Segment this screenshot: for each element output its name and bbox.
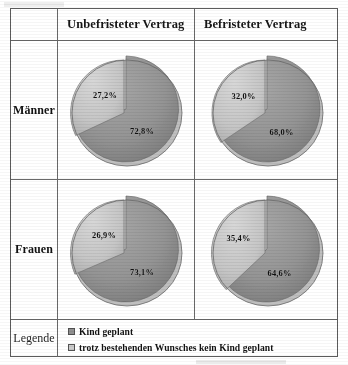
pie-chart-maenner-befristet: 32,0% 68,0%	[208, 51, 326, 169]
column-header-unbefristeter-vertrag: Unbefristeter Vertrag	[58, 9, 194, 40]
scan-artifact-top-left	[4, 2, 64, 7]
scanned-figure-page: Unbefristeter Vertrag Befristeter Vertra…	[0, 0, 348, 365]
scan-artifact-bottom-right	[196, 360, 286, 364]
legend-label-kein-kind-geplant: trotz bestehenden Wunsches kein Kind gep…	[79, 342, 273, 353]
pie-chart-frauen-unbefristet: 26,9% 73,1%	[67, 191, 185, 309]
legend-item-kein-kind-geplant: trotz bestehenden Wunsches kein Kind gep…	[68, 340, 338, 355]
pie-cell-maenner-befristet: 32,0% 68,0%	[195, 41, 338, 179]
table-corner-cell	[11, 9, 57, 40]
row-label-frauen: Frauen	[11, 180, 57, 319]
pie-cell-frauen-unbefristet: 26,9% 73,1%	[58, 180, 194, 319]
pie-svg-frauen-unbefristet	[67, 191, 185, 309]
pie-cell-maenner-unbefristet: 27,2% 72,8%	[58, 41, 194, 179]
pie-value-label-large: 64,6%	[268, 269, 292, 278]
figure-table: Unbefristeter Vertrag Befristeter Vertra…	[10, 8, 338, 357]
pie-cell-frauen-befristet: 35,4% 64,6%	[195, 180, 338, 319]
row-label-maenner: Männer	[11, 41, 57, 179]
pie-svg-maenner-unbefristet	[67, 51, 185, 169]
pie-value-label-large: 68,0%	[270, 128, 294, 137]
pie-value-label-small: 32,0%	[232, 92, 256, 101]
pie-chart-maenner-unbefristet: 27,2% 72,8%	[67, 51, 185, 169]
pie-svg-frauen-befristet	[208, 191, 326, 309]
pie-value-label-small: 27,2%	[93, 91, 117, 100]
legend-swatch-icon-kind-geplant	[68, 328, 75, 335]
pie-value-label-large: 73,1%	[130, 268, 154, 277]
column-header-befristeter-vertrag: Befristeter Vertrag	[195, 9, 338, 40]
legend: Kind geplant trotz bestehenden Wunsches …	[58, 320, 338, 357]
pie-value-label-large: 72,8%	[130, 127, 154, 136]
legend-swatch-icon-kein-kind-geplant	[68, 344, 75, 351]
legend-item-kind-geplant: Kind geplant	[68, 324, 338, 339]
legend-label-kind-geplant: Kind geplant	[79, 326, 133, 337]
row-label-legende: Legende	[11, 320, 57, 357]
pie-value-label-small: 26,9%	[92, 231, 116, 240]
pie-chart-frauen-befristet: 35,4% 64,6%	[208, 191, 326, 309]
pie-svg-maenner-befristet	[208, 51, 326, 169]
pie-value-label-small: 35,4%	[227, 234, 251, 243]
